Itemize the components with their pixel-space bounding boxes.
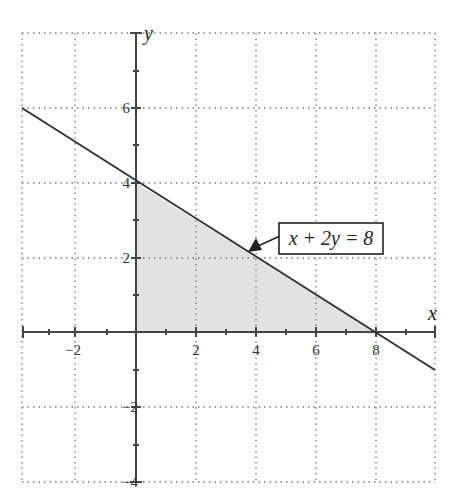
- y-tick-label-4: 4: [123, 175, 131, 191]
- x-tick-label-4: 4: [252, 342, 260, 358]
- y-tick-label-6: 6: [123, 100, 131, 116]
- equation-label: x + 2y = 8: [288, 227, 374, 250]
- x-tick-label-6: 6: [312, 342, 320, 358]
- x-tick-label-8: 8: [372, 342, 380, 358]
- x-axis-label: x: [427, 302, 437, 324]
- y-tick-label-2: 2: [123, 250, 131, 266]
- x-tick-label-neg2: −2: [65, 342, 81, 358]
- equation-annotation: x + 2y = 8: [248, 223, 383, 254]
- y-tick-label-neg4: −4: [122, 474, 138, 490]
- y-tick-label-neg2: −2: [122, 399, 138, 415]
- chart: −2 2 4 6 8 6 4 2 −2 −4 y x x + 2y = 8: [0, 0, 451, 495]
- y-axis-label: y: [142, 22, 153, 45]
- x-tick-label-2: 2: [192, 342, 200, 358]
